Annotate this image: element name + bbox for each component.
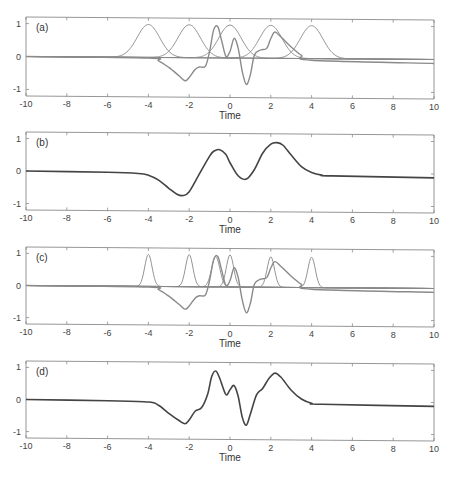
panel-a: -10-8-6-4-20246810-101Time(a) (13, 17, 439, 121)
x-tick-label: 10 (429, 444, 439, 454)
basis-curve (26, 257, 434, 288)
x-axis-label: Time (219, 338, 241, 349)
x-tick-label: 8 (391, 330, 396, 340)
y-tick-label: -1 (13, 199, 21, 209)
x-tick-label: -2 (185, 100, 193, 110)
x-tick-label: -8 (63, 441, 71, 451)
y-tick-label: -1 (13, 313, 21, 323)
x-tick-label: 4 (309, 215, 314, 225)
x-tick-label: -4 (144, 214, 152, 224)
y-tick-label: -1 (13, 427, 21, 437)
y-tick-label: 1 (16, 362, 21, 372)
panel-label: (c) (36, 252, 48, 263)
x-tick-label: 10 (429, 216, 439, 226)
x-tick-label: 6 (350, 101, 355, 111)
x-tick-label: -6 (104, 100, 112, 110)
x-tick-label: -10 (19, 99, 32, 109)
y-tick-label: 1 (16, 19, 21, 29)
x-tick-label: -6 (104, 214, 112, 224)
basis-curve (26, 256, 434, 288)
basis-curve (26, 257, 434, 289)
y-tick-label: 0 (16, 281, 21, 291)
x-tick-label: -8 (63, 99, 71, 109)
panel-c: -10-8-6-4-20246810-101Time(c) (13, 247, 439, 349)
basis-curve (26, 255, 434, 289)
basis-curve (26, 254, 434, 288)
x-tick-label: -2 (185, 442, 193, 452)
x-tick-label: 2 (268, 215, 273, 225)
x-axis-label: Time (219, 110, 241, 121)
x-tick-label: 0 (227, 443, 232, 453)
figure: -10-8-6-4-20246810-101Time(a) -10-8-6-4-… (0, 0, 450, 477)
x-tick-label: 0 (227, 329, 232, 339)
x-tick-label: -6 (104, 328, 112, 338)
x-tick-label: 0 (227, 101, 232, 111)
y-tick-label: 0 (16, 166, 21, 176)
panel-b: -10-8-6-4-20246810-101Time(b) (13, 132, 439, 235)
x-tick-label: -4 (144, 442, 152, 452)
x-tick-label: 6 (350, 215, 355, 225)
x-tick-label: 8 (391, 444, 396, 454)
basis-curve (26, 24, 434, 59)
x-tick-label: 2 (268, 101, 273, 111)
x-tick-label: 4 (309, 329, 314, 339)
panel-label: (b) (36, 137, 48, 148)
x-tick-label: 8 (391, 102, 396, 112)
x-tick-label: -10 (19, 441, 32, 451)
signal-curve (26, 26, 434, 85)
x-tick-label: 0 (227, 215, 232, 225)
basis-curve (26, 26, 434, 60)
x-tick-label: -6 (104, 442, 112, 452)
x-tick-label: -8 (63, 213, 71, 223)
x-tick-label: 6 (350, 329, 355, 339)
x-axis-label: Time (219, 224, 241, 235)
panel-label: (a) (36, 22, 48, 33)
x-tick-label: 2 (268, 329, 273, 339)
basis-curve (26, 25, 434, 59)
x-tick-label: -4 (144, 100, 152, 110)
x-tick-label: -10 (19, 213, 32, 223)
panel-label: (d) (36, 366, 48, 377)
x-tick-label: -4 (144, 328, 152, 338)
basis-curve (26, 25, 434, 59)
signal-curve (26, 256, 434, 313)
y-tick-label: 0 (16, 52, 21, 62)
panel-d: -10-8-6-4-20246810-101Time(d) (13, 361, 439, 463)
basis-curve (26, 255, 434, 289)
reconstruction-curve (26, 371, 434, 425)
y-tick-label: 1 (16, 248, 21, 258)
x-tick-label: 6 (350, 443, 355, 453)
x-tick-label: 10 (429, 330, 439, 340)
x-tick-label: -10 (19, 327, 32, 337)
x-tick-label: 2 (268, 443, 273, 453)
x-axis-label: Time (219, 452, 241, 463)
y-tick-label: -1 (13, 84, 21, 94)
x-tick-label: 10 (429, 102, 439, 112)
x-tick-label: 4 (309, 443, 314, 453)
x-tick-label: 8 (391, 216, 396, 226)
reconstruction-curve (26, 143, 434, 196)
x-tick-label: -8 (63, 327, 71, 337)
basis-curve (26, 25, 434, 60)
y-tick-label: 0 (16, 395, 21, 405)
x-tick-label: -2 (185, 328, 193, 338)
x-tick-label: 4 (309, 101, 314, 111)
y-tick-label: 1 (16, 134, 21, 144)
x-tick-label: -2 (185, 214, 193, 224)
